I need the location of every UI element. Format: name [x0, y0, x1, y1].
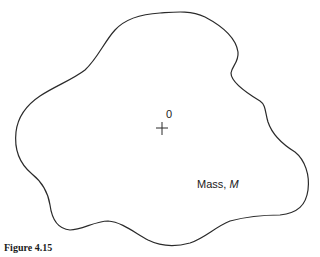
mass-label-text: Mass, — [197, 178, 229, 190]
mass-symbol: M — [229, 178, 238, 190]
origin-label: 0 — [166, 108, 172, 120]
mass-outline-drawing — [0, 0, 320, 257]
mass-label: Mass, M — [197, 178, 239, 190]
origin-cross-icon — [156, 122, 168, 135]
figure-caption: Figure 4.15 — [4, 242, 52, 253]
